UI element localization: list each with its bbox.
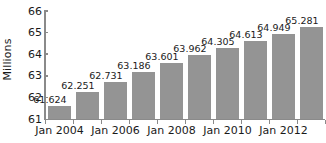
bar-slot <box>76 11 98 119</box>
bar[interactable] <box>188 55 210 119</box>
bar[interactable] <box>132 72 154 119</box>
bar-chart: Millions 616263646566 61.62462.25162.731… <box>0 0 326 143</box>
y-axis-tick-label: 63 <box>28 70 44 81</box>
x-axis-tick-label: Jan 2010 <box>203 124 251 137</box>
bar-value-label: 62.251 <box>61 81 94 91</box>
x-axis-tick-mark <box>101 120 103 124</box>
x-axis-tick-label: Jan 2006 <box>91 124 139 137</box>
x-axis-tick-mark <box>73 120 75 124</box>
x-axis-tick-mark <box>185 120 187 124</box>
bar-slot <box>216 11 238 119</box>
y-axis: 616263646566 <box>16 0 44 124</box>
x-axis-tick-label: Jan 2004 <box>35 124 83 137</box>
bar-value-label: 63.186 <box>117 61 150 71</box>
y-axis-tick-label: 61 <box>28 114 44 125</box>
bar[interactable] <box>48 106 70 119</box>
y-axis-tick-mark <box>44 97 48 99</box>
x-axis-tick-mark <box>213 120 215 124</box>
bar-slot <box>300 11 322 119</box>
x-axis-tick-mark <box>129 120 131 124</box>
bar[interactable] <box>216 48 238 119</box>
bar-slot <box>188 11 210 119</box>
bar[interactable] <box>76 92 98 119</box>
bar-slot <box>160 11 182 119</box>
bar[interactable] <box>300 27 322 119</box>
y-axis-tick-mark <box>44 32 48 34</box>
y-axis-title-label: Millions <box>2 38 15 80</box>
y-axis-tick-mark <box>44 75 48 77</box>
y-axis-tick-mark <box>44 53 48 55</box>
x-axis-tick-label: Jan 2012 <box>259 124 307 137</box>
x-axis-tick-label: Jan 2008 <box>147 124 195 137</box>
x-axis-tick-mark <box>297 120 299 124</box>
y-axis-tick-label: 65 <box>28 27 44 38</box>
bar-value-label: 65.281 <box>285 16 318 26</box>
bar[interactable] <box>160 63 182 119</box>
bar-value-label: 62.731 <box>89 71 122 81</box>
x-axis-tick-mark <box>157 120 159 124</box>
x-axis-tick-mark <box>241 120 243 124</box>
bar[interactable] <box>104 82 126 119</box>
bar-value-label: 61.624 <box>33 95 66 105</box>
bar[interactable] <box>244 41 266 119</box>
x-axis-tick-mark <box>45 120 47 124</box>
y-axis-tick-label: 64 <box>28 49 44 60</box>
y-axis-tick-mark <box>44 10 48 12</box>
bar[interactable] <box>272 34 294 119</box>
y-axis-tick-label: 66 <box>28 6 44 17</box>
plot-area: 61.62462.25162.73163.18663.60163.96264.3… <box>46 11 326 119</box>
y-axis-title: Millions <box>0 0 16 118</box>
x-axis-tick-mark <box>269 120 271 124</box>
